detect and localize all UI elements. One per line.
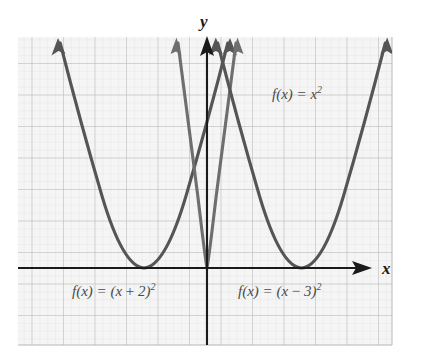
label-right-shift: 3): [303, 283, 317, 300]
label-middle-exponent: 2: [317, 84, 322, 95]
label-left-prefix: f(x) = (x: [72, 283, 122, 300]
label-left-parabola: f(x) = (x + 2)2: [72, 281, 156, 300]
label-right-operator: −: [288, 283, 304, 299]
label-right-prefix: f(x) = (x: [238, 283, 288, 300]
label-right-parabola: f(x) = (x − 3)2: [238, 281, 322, 300]
svg-text:f(x) = (x − 3)2: f(x) = (x − 3)2: [238, 281, 322, 300]
label-middle-parabola: f(x) = x2: [272, 84, 322, 103]
parabola-translations-figure: y x f(x) = x2 f(x) = (x + 2)2 f(x) = (x …: [0, 0, 425, 354]
graph-canvas: y x f(x) = x2 f(x) = (x + 2)2 f(x) = (x …: [0, 0, 425, 354]
svg-text:f(x) = (x + 2)2: f(x) = (x + 2)2: [72, 281, 156, 300]
label-middle-prefix: f(x) = x: [272, 86, 317, 103]
label-right-exponent: 2: [317, 281, 322, 292]
label-left-exponent: 2: [151, 281, 156, 292]
svg-text:f(x) = x2: f(x) = x2: [272, 84, 322, 103]
x-axis-label: x: [381, 259, 391, 278]
y-axis-label: y: [198, 12, 208, 31]
label-left-shift: 2): [138, 283, 151, 300]
label-left-operator: +: [122, 283, 138, 299]
